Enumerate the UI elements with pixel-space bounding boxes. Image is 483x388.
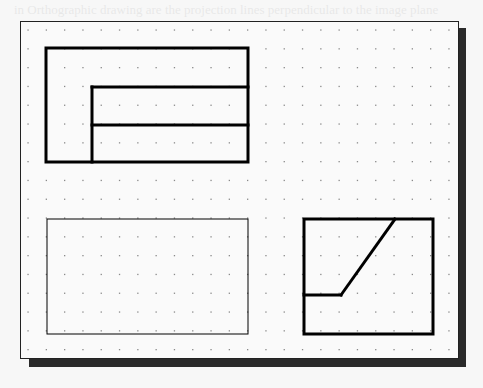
grid-dots (27, 29, 449, 350)
view-outline (46, 48, 248, 162)
bottom-left-blank-view (47, 219, 248, 334)
view-outline (47, 219, 248, 334)
drawing-canvas (0, 0, 483, 388)
top-left-view (46, 48, 248, 162)
bottom-right-view (304, 219, 433, 334)
view-outline (304, 219, 433, 334)
view-edge-line (341, 219, 395, 295)
